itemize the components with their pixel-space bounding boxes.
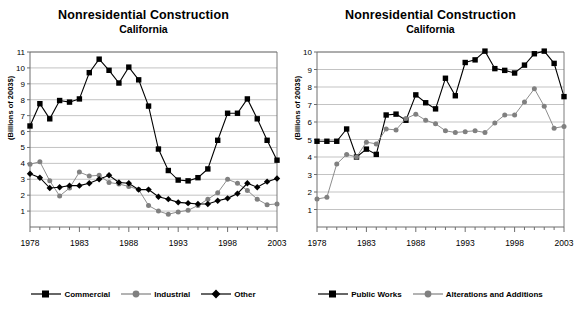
y-tick-label: 4 bbox=[21, 159, 26, 168]
y-axis-label-left: (Billions of 2003$) bbox=[6, 76, 15, 140]
y-tick-label: 2 bbox=[21, 191, 26, 200]
data-point bbox=[27, 123, 32, 128]
data-point bbox=[551, 61, 556, 66]
data-point bbox=[383, 112, 388, 117]
data-point bbox=[463, 129, 468, 134]
data-point bbox=[433, 121, 438, 126]
x-tick-label: 1998 bbox=[218, 238, 237, 248]
data-point bbox=[354, 155, 359, 160]
data-point bbox=[205, 166, 210, 171]
y-tick-label: 10 bbox=[303, 48, 312, 57]
data-point bbox=[225, 177, 230, 182]
data-point bbox=[512, 70, 517, 75]
x-tick-label: 2003 bbox=[555, 238, 574, 248]
chart-title-left: Nonresidential Construction bbox=[0, 8, 287, 22]
legend-item-other[interactable]: Other bbox=[201, 289, 255, 299]
x-tick-label: 1993 bbox=[456, 238, 475, 248]
data-point bbox=[334, 162, 339, 167]
data-point bbox=[344, 126, 349, 131]
chart-panel-left: Nonresidential Construction California (… bbox=[0, 0, 287, 319]
legend-label-other: Other bbox=[234, 290, 255, 299]
legend-marker-diamond-icon bbox=[201, 289, 231, 299]
data-point bbox=[57, 193, 62, 198]
data-point bbox=[453, 130, 458, 135]
data-point bbox=[274, 157, 279, 162]
data-point bbox=[512, 113, 517, 118]
data-point bbox=[433, 106, 438, 111]
chart-svg-left: 1234567891011197819831988199319982003 bbox=[0, 44, 287, 269]
x-tick-label: 1978 bbox=[21, 238, 40, 248]
legend-item-commercial[interactable]: Commercial bbox=[31, 289, 110, 299]
data-point bbox=[561, 94, 566, 99]
data-point bbox=[224, 195, 230, 201]
data-point bbox=[116, 80, 121, 85]
data-point bbox=[394, 127, 399, 132]
data-point bbox=[107, 180, 112, 185]
x-tick-label: 2003 bbox=[268, 238, 287, 248]
chart-svg-right: 12345678910197819831988199319982003 bbox=[287, 44, 574, 269]
data-point bbox=[185, 200, 191, 206]
plot-area-left: (Billions of 2003$) 12345678910111978198… bbox=[0, 44, 287, 269]
data-point bbox=[176, 209, 181, 214]
legend-label-public-works: Public Works bbox=[351, 290, 402, 299]
data-point bbox=[87, 174, 92, 179]
data-point bbox=[215, 138, 220, 143]
legend-item-industrial[interactable]: Industrial bbox=[121, 289, 190, 299]
data-point bbox=[393, 111, 398, 116]
chart-title-right: Nonresidential Construction bbox=[287, 8, 574, 22]
x-tick-label: 1978 bbox=[308, 238, 327, 248]
data-point bbox=[552, 126, 557, 131]
data-point bbox=[334, 139, 339, 144]
x-tick-label: 1993 bbox=[169, 238, 188, 248]
data-point bbox=[37, 101, 42, 106]
y-tick-label: 3 bbox=[308, 171, 313, 180]
data-point bbox=[562, 124, 567, 129]
data-point bbox=[315, 197, 320, 202]
data-point bbox=[195, 175, 200, 180]
data-point bbox=[146, 103, 151, 108]
data-point bbox=[364, 140, 369, 145]
legend-item-alterations-additions[interactable]: Alterations and Additions bbox=[413, 289, 543, 299]
series-line bbox=[30, 174, 277, 204]
data-point bbox=[492, 120, 497, 125]
data-point bbox=[87, 70, 92, 75]
data-point bbox=[47, 178, 52, 183]
data-point bbox=[136, 77, 141, 82]
y-tick-label: 8 bbox=[21, 96, 26, 105]
data-point bbox=[47, 116, 52, 121]
data-point bbox=[175, 199, 181, 205]
data-point bbox=[166, 212, 171, 217]
data-point bbox=[245, 96, 250, 101]
legend-item-public-works[interactable]: Public Works bbox=[318, 289, 402, 299]
y-tick-label: 1 bbox=[308, 206, 313, 215]
data-point bbox=[156, 209, 161, 214]
data-point bbox=[314, 139, 319, 144]
y-tick-label: 4 bbox=[308, 153, 313, 162]
data-point bbox=[186, 208, 191, 213]
data-point bbox=[146, 203, 151, 208]
y-tick-label: 6 bbox=[308, 118, 313, 127]
data-point bbox=[482, 130, 487, 135]
y-tick-label: 11 bbox=[17, 48, 26, 57]
data-point bbox=[255, 197, 260, 202]
data-point bbox=[215, 198, 221, 204]
data-point bbox=[235, 111, 240, 116]
data-point bbox=[215, 190, 220, 195]
data-point bbox=[57, 98, 62, 103]
data-point bbox=[532, 86, 537, 91]
data-point bbox=[364, 146, 369, 151]
data-point bbox=[502, 68, 507, 73]
data-point bbox=[235, 181, 240, 186]
data-point bbox=[522, 62, 527, 67]
data-point bbox=[106, 68, 111, 73]
series-line bbox=[317, 89, 564, 199]
legend-right: Public Works Alterations and Additions bbox=[287, 289, 574, 299]
data-point bbox=[27, 171, 33, 177]
data-point bbox=[522, 99, 527, 104]
y-axis-label-right: (Billions of 2003$) bbox=[293, 76, 302, 140]
data-point bbox=[502, 113, 507, 118]
legend-label-industrial: Industrial bbox=[154, 290, 190, 299]
data-point bbox=[37, 159, 42, 164]
data-point bbox=[443, 76, 448, 81]
data-point bbox=[255, 116, 260, 121]
